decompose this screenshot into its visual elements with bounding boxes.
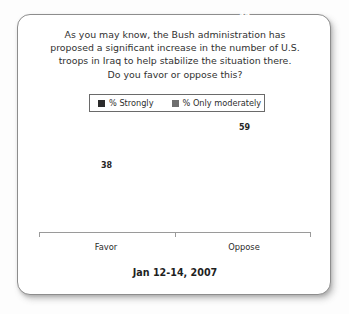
chart-card: As you may know, the Bush administration…: [17, 14, 331, 295]
category-label-favor: Favor: [61, 242, 151, 252]
bar-segment-value: 15: [217, 11, 272, 20]
bar-total-label: 38: [79, 161, 134, 170]
axis-tick: [175, 233, 176, 237]
bar-total-label: 59: [217, 123, 272, 132]
survey-date-label: Jan 12-14, 2007: [18, 267, 332, 278]
plot-area: 38 19 19 Favor 59 44 15 Oppose: [18, 15, 332, 296]
axis-tick: [310, 233, 311, 237]
category-label-oppose: Oppose: [199, 242, 289, 252]
bar-segment-value: 19: [79, 187, 134, 196]
screenshot-stage: As you may know, the Bush administration…: [0, 0, 349, 314]
bar-favor[interactable]: 19 19: [79, 191, 134, 232]
axis-tick: [39, 233, 40, 237]
